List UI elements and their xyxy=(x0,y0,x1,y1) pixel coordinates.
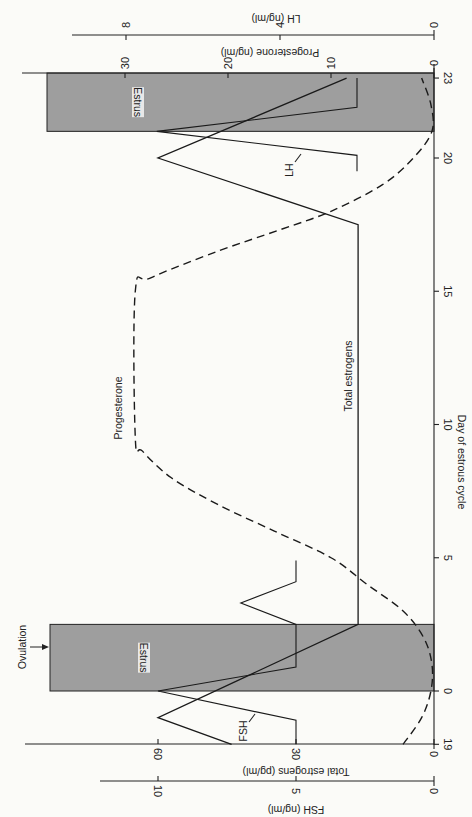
hormone-chart: EstrusEstrus 190510152023030600510010203… xyxy=(0,0,472,817)
xlabel: Day of estrous cycle xyxy=(456,415,468,510)
progesterone-axis-title: Progesterone (ng/ml) xyxy=(221,47,320,59)
fsh-label-leader xyxy=(249,714,255,722)
lh-label: LH xyxy=(283,163,295,176)
progesterone-tick-label: 30 xyxy=(119,57,131,69)
day-tick-label: 19 xyxy=(442,738,454,750)
lh-label-leader xyxy=(295,154,301,162)
estrus-regions: EstrusEstrus xyxy=(47,73,434,691)
day-tick-label: 15 xyxy=(442,285,454,297)
fsh-tick-label: 0 xyxy=(428,788,440,794)
fsh-label: FSH xyxy=(237,721,249,742)
fsh-tick-label: 5 xyxy=(290,788,302,794)
day-tick-label: 20 xyxy=(442,152,454,164)
total-estrogens-label: Total estrogens xyxy=(342,340,354,411)
progesterone-tick-label: 0 xyxy=(428,60,440,66)
day-tick-label: 0 xyxy=(442,688,454,694)
ovulation-label: Ovulation xyxy=(16,625,28,670)
estrogens-tick-label: 0 xyxy=(428,751,440,757)
lh-tick-label: 0 xyxy=(428,22,440,28)
estrus-label: Estrus xyxy=(132,87,144,117)
fsh-axis-title: FSH (ng/ml) xyxy=(268,804,325,816)
estrogens-tick-label: 60 xyxy=(152,748,164,760)
estrus-region: Estrus xyxy=(50,624,434,691)
ovulation-arrow-icon xyxy=(30,644,49,650)
lh-tick-label: 8 xyxy=(120,22,132,28)
progesterone-tick-label: 10 xyxy=(325,57,337,69)
lh-axis-title: LH (ng/ml) xyxy=(251,13,300,25)
day-tick-label: 5 xyxy=(442,555,454,561)
labels: Day of estrous cycle Total estrogens (pg… xyxy=(16,13,468,816)
day-tick-label: 10 xyxy=(442,418,454,430)
progesterone-label: Progesterone xyxy=(112,376,124,439)
estrus-label: Estrus xyxy=(138,643,150,673)
day-tick-label: 23 xyxy=(442,72,454,84)
estrogens-tick-label: 30 xyxy=(290,748,302,760)
fsh-tick-label: 10 xyxy=(152,785,164,797)
estrogens-axis-title: Total estrogens (pg/ml) xyxy=(243,766,350,778)
